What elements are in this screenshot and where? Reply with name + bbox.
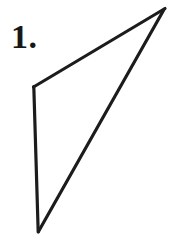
upper-left-edge-line xyxy=(34,9,166,88)
interior-diagonal-line xyxy=(39,10,165,232)
left-vertical-edge-line xyxy=(34,87,38,233)
figure-number-label: 1. xyxy=(11,19,38,55)
figure-container: 1. xyxy=(0,0,177,236)
